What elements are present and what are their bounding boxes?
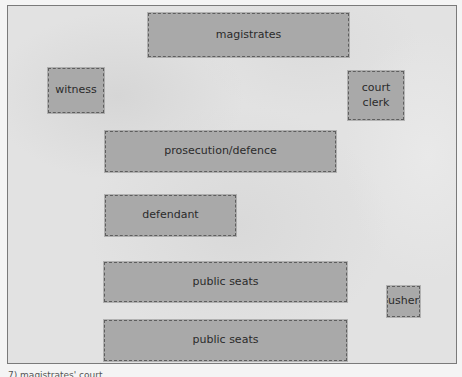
witness-label: witness xyxy=(55,83,97,98)
magistrates-box: magistrates xyxy=(148,13,349,57)
defendant-box: defendant xyxy=(105,195,236,236)
public-seats-box-2: public seats xyxy=(104,320,347,361)
defendant-label: defendant xyxy=(142,208,198,223)
prosecution-defence-label: prosecution/defence xyxy=(164,144,276,159)
court-clerk-box: court clerk xyxy=(348,71,404,120)
prosecution-defence-box: prosecution/defence xyxy=(105,131,336,172)
court-clerk-label-line1: court xyxy=(362,81,391,96)
witness-box: witness xyxy=(48,68,104,113)
figure-caption: 7) magistrates' court xyxy=(8,368,103,377)
public-seats-label-2: public seats xyxy=(193,333,259,348)
public-seats-box-1: public seats xyxy=(104,262,347,302)
magistrates-label: magistrates xyxy=(216,28,282,43)
usher-box: usher xyxy=(387,286,420,317)
usher-label: usher xyxy=(388,294,419,309)
public-seats-label-1: public seats xyxy=(193,275,259,290)
court-clerk-label-line2: clerk xyxy=(363,96,390,111)
